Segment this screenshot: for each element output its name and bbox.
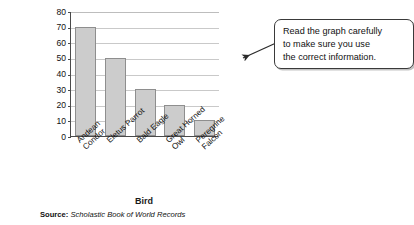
y-axis-tick — [68, 90, 72, 91]
y-axis-tick-label: 80 — [44, 8, 66, 17]
y-axis-tick-label: 60 — [44, 39, 66, 48]
y-axis-tick-label: 0 — [44, 133, 66, 142]
bar — [75, 27, 96, 136]
gridline — [71, 12, 219, 13]
y-axis-tick — [68, 28, 72, 29]
callout-line-2: to make sure you use — [283, 38, 413, 51]
y-axis-tick-label: 20 — [44, 101, 66, 110]
y-axis-tick — [68, 59, 72, 60]
y-axis-tick-label: 40 — [44, 70, 66, 79]
y-axis-tick — [68, 43, 72, 44]
y-axis-tick — [68, 121, 72, 122]
y-axis-tick — [68, 12, 72, 13]
y-axis-tick — [68, 75, 72, 76]
callout-line-3: the correct information. — [283, 51, 413, 64]
source-line: Source: Scholastic Book of World Records — [40, 210, 185, 219]
y-axis-tick-label: 70 — [44, 23, 66, 32]
y-axis-tick — [68, 106, 72, 107]
callout-text: Read the graph carefully to make sure yo… — [283, 25, 413, 64]
x-axis-title: Bird — [70, 196, 218, 206]
y-axis-tick-label: 50 — [44, 54, 66, 63]
x-axis-tick-labels: AndeanCondorEletus ParrotBald EagleGreat… — [70, 138, 230, 194]
y-axis-tick-label: 10 — [44, 117, 66, 126]
callout-box: Read the graph carefully to make sure yo… — [274, 19, 414, 69]
y-axis-tick-label: 30 — [44, 86, 66, 95]
callout-line-1: Read the graph carefully — [283, 25, 413, 38]
source-label: Source: — [40, 210, 68, 219]
source-text: Scholastic Book of World Records — [70, 210, 185, 219]
y-axis-tick-labels: 80706050403020100 — [44, 12, 66, 137]
